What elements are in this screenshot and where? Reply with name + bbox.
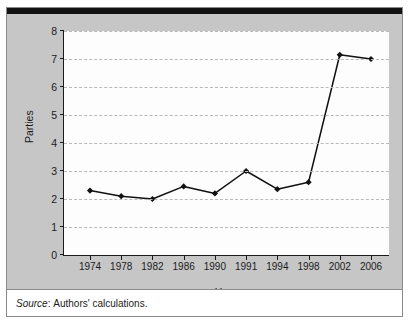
data-point-1986 [181,183,187,189]
y-tick-label-4: 4 [51,138,57,149]
data-point-2002 [337,52,343,58]
x-tick-mark-1994 [277,255,278,260]
x-tick-label-1974: 1974 [79,262,101,272]
data-point-1994 [274,186,280,192]
chart-body: Parties 01234567819741978198219861990199… [7,14,402,289]
y-tick-mark-5 [60,114,64,115]
gridline-y-5 [64,115,389,116]
x-tick-label-1986: 1986 [173,262,195,272]
x-tick-label-2002: 2002 [329,262,351,272]
x-tick-label-1998: 1998 [297,262,319,272]
x-tick-mark-1982 [152,255,153,260]
data-point-1974 [87,188,93,194]
x-tick-label-2006: 2006 [360,262,382,272]
y-tick-mark-7 [60,58,64,59]
gridline-y-8 [64,31,389,32]
source-label: Source [16,298,48,309]
x-tick-mark-2006 [371,255,372,260]
gridline-y-7 [64,59,389,60]
x-tick-label-1982: 1982 [141,262,163,272]
plot-area: 0123456781974197819821986199019911994199… [63,31,389,256]
x-tick-mark-1986 [184,255,185,260]
y-tick-label-8: 8 [51,26,57,37]
y-tick-mark-4 [60,142,64,143]
plot-wrapper: Parties 01234567819741978198219861990199… [7,14,402,289]
x-tick-mark-1978 [121,255,122,260]
gridline-y-1 [64,227,389,228]
gridline-y-4 [64,143,389,144]
x-tick-mark-1998 [309,255,310,260]
source-text: Authors' calculations. [53,298,147,309]
gridline-y-6 [64,87,389,88]
x-tick-mark-1990 [215,255,216,260]
y-tick-mark-8 [60,30,64,31]
y-tick-mark-0 [60,254,64,255]
series-line-parties [90,55,371,199]
y-tick-label-2: 2 [51,194,57,205]
x-tick-mark-1991 [246,255,247,260]
y-tick-mark-2 [60,198,64,199]
source-note: Source : Authors' calculations. [7,289,402,316]
figure-container: Parties 01234567819741978198219861990199… [0,0,409,324]
x-tick-label-1990: 1990 [204,262,226,272]
y-tick-mark-1 [60,226,64,227]
y-tick-label-6: 6 [51,82,57,93]
gridline-y-2 [64,199,389,200]
figure-frame: Parties 01234567819741978198219861990199… [6,7,403,317]
y-tick-label-3: 3 [51,166,57,177]
x-tick-label-1994: 1994 [266,262,288,272]
x-tick-mark-1974 [90,255,91,260]
y-tick-mark-3 [60,170,64,171]
x-tick-label-1978: 1978 [110,262,132,272]
gridline-y-3 [64,171,389,172]
data-point-1998 [305,179,311,185]
y-axis-title: Parties [23,110,35,143]
y-tick-label-5: 5 [51,110,57,121]
y-tick-label-7: 7 [51,54,57,65]
y-tick-label-1: 1 [51,222,57,233]
y-tick-label-0: 0 [51,250,57,261]
x-tick-label-1991: 1991 [235,262,257,272]
y-tick-mark-6 [60,86,64,87]
x-tick-mark-2002 [340,255,341,260]
